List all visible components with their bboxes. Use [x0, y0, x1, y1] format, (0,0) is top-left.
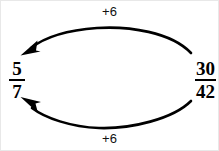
arrow-arcs-group [1, 1, 219, 151]
top-arrow [21, 28, 192, 56]
right-fraction-numerator: 30 [195, 59, 216, 78]
bottom-operation-label: +6 [1, 131, 218, 146]
top-operation-label: +6 [1, 4, 218, 19]
left-fraction: 5 7 [9, 59, 25, 102]
left-fraction-denominator: 7 [11, 82, 23, 101]
top-operation-label-text: +6 [102, 4, 117, 19]
bottom-operation-label-text: +6 [102, 131, 117, 146]
top-arrow-arc [31, 28, 191, 53]
right-fraction: 30 42 [195, 59, 216, 102]
bottom-arrow [21, 97, 192, 128]
diagram-canvas: +6 +6 5 7 30 42 [0, 0, 219, 151]
left-fraction-numerator: 5 [11, 59, 23, 78]
bottom-arrow-arc [32, 101, 191, 128]
right-fraction-denominator: 42 [195, 82, 216, 101]
